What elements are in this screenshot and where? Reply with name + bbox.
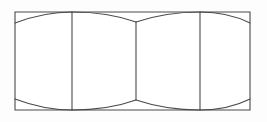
hexnut-drawing-svg <box>0 0 267 122</box>
hexnut-figure <box>0 0 267 122</box>
nut-body-fill <box>15 12 250 110</box>
